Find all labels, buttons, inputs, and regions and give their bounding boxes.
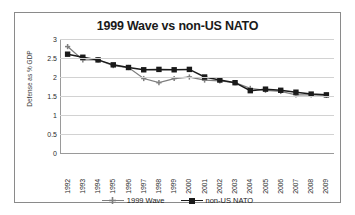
- data-point: [217, 77, 222, 82]
- y-tick-2-5: 2.5: [47, 55, 57, 62]
- legend-label-non-us-nato: non-US NATO: [206, 196, 254, 205]
- legend-square-marker-icon: [189, 198, 195, 204]
- y-tick-2: 2: [53, 74, 57, 81]
- gridline-0: [60, 153, 334, 154]
- y-axis-tick-labels: 00.511.522.53: [39, 35, 57, 153]
- x-tick-2004: 2004: [246, 179, 253, 194]
- x-tick-1992: 1992: [64, 179, 71, 194]
- x-tick-1994: 1994: [94, 179, 101, 194]
- x-tick-1993: 1993: [79, 179, 86, 194]
- data-point: [126, 65, 131, 70]
- x-tick-1995: 1995: [109, 179, 116, 194]
- y-tick-1: 1: [53, 112, 57, 119]
- plot-area: [60, 39, 334, 153]
- chart-title: 1999 Wave vs non-US NATO: [15, 19, 340, 33]
- y-axis-label: Defense as % GDP: [26, 36, 33, 122]
- data-point: [65, 52, 70, 57]
- data-point: [156, 80, 161, 85]
- gridline-3: [60, 39, 334, 40]
- y-tick-0-5: 0.5: [47, 131, 57, 138]
- x-tick-2009: 2009: [322, 179, 329, 194]
- x-tick-1999: 1999: [170, 179, 177, 194]
- data-point: [187, 67, 192, 72]
- x-tick-2001: 2001: [201, 179, 208, 194]
- data-point: [111, 62, 116, 67]
- legend-swatch-non-us-nato: [181, 196, 203, 205]
- x-tick-2008: 2008: [307, 179, 314, 194]
- data-point: [248, 88, 253, 93]
- data-point: [278, 88, 283, 93]
- data-point: [171, 67, 176, 72]
- legend-item-1999-wave[interactable]: 1999 Wave: [102, 196, 165, 205]
- data-point: [293, 90, 298, 95]
- legend-swatch-1999-wave: [102, 196, 124, 205]
- gridline-0-5: [60, 134, 334, 135]
- gridline-1-5: [60, 96, 334, 97]
- chart-frame: 1999 Wave vs non-US NATO Defense as % GD…: [14, 12, 341, 203]
- x-tick-2003: 2003: [231, 179, 238, 194]
- data-point: [141, 67, 146, 72]
- series-line-non-us-nato: [68, 54, 327, 95]
- data-point: [232, 80, 237, 85]
- x-tick-1996: 1996: [125, 179, 132, 194]
- x-tick-1998: 1998: [155, 179, 162, 194]
- y-tick-1-5: 1.5: [47, 93, 57, 100]
- x-tick-2002: 2002: [216, 179, 223, 194]
- y-tick-3: 3: [53, 36, 57, 43]
- legend-label-1999-wave: 1999 Wave: [127, 196, 165, 205]
- chart-legend: 1999 Wavenon-US NATO: [15, 196, 340, 205]
- legend-item-non-us-nato[interactable]: non-US NATO: [181, 196, 254, 205]
- gridline-1: [60, 115, 334, 116]
- series-line-1999-wave: [68, 47, 327, 96]
- gridline-2-5: [60, 58, 334, 59]
- x-tick-1997: 1997: [140, 179, 147, 194]
- gridline-2: [60, 77, 334, 78]
- data-point: [156, 67, 161, 72]
- legend-cross-marker-icon: [109, 197, 116, 204]
- x-tick-2000: 2000: [185, 179, 192, 194]
- x-axis-tick-labels: 1992199319941995199619971998199920002001…: [60, 156, 334, 194]
- x-tick-2005: 2005: [262, 179, 269, 194]
- x-tick-2007: 2007: [292, 179, 299, 194]
- data-point: [263, 86, 268, 91]
- x-tick-2006: 2006: [277, 179, 284, 194]
- y-tick-0: 0: [53, 150, 57, 157]
